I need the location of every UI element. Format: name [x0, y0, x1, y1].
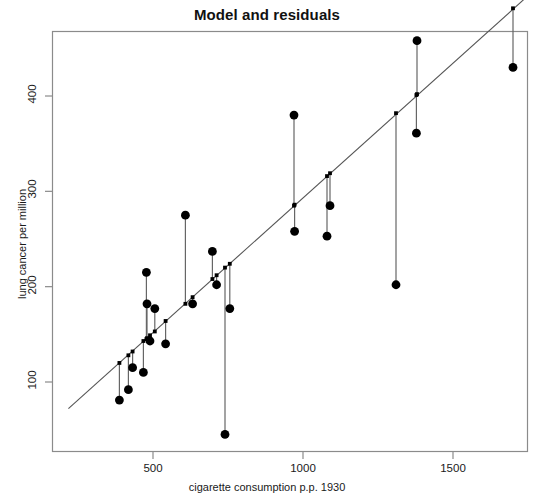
y-tick-label: 400: [26, 64, 38, 124]
x-tick-label: 1000: [273, 462, 333, 474]
plot-area: [0, 0, 534, 502]
residual-lines: [119, 8, 513, 434]
plot-frame: [53, 32, 528, 452]
y-tick-label: 100: [26, 350, 38, 410]
x-tick-label: 1500: [423, 462, 483, 474]
x-axis-label: cigarette consumption p.p. 1930: [0, 481, 534, 493]
axis-ticks: [45, 96, 453, 459]
regression-line: [68, 0, 531, 409]
y-axis-label: lung cancer per million: [16, 134, 28, 354]
x-tick-label: 500: [123, 462, 183, 474]
chart-figure: Model and residuals 50010001500 10020030…: [0, 0, 534, 502]
data-points: [115, 36, 517, 439]
